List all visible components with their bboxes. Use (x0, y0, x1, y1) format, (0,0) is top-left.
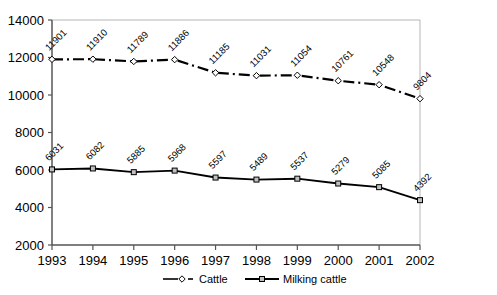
legend-label: Milking cattle (283, 273, 347, 285)
chart-legend: CattleMilking cattle (163, 273, 347, 285)
data-point-marker-square (295, 176, 300, 181)
x-axis-tick-label: 1997 (201, 253, 230, 268)
data-point-label: 5279 (329, 154, 352, 177)
x-axis-tick-label: 1995 (119, 253, 148, 268)
data-point-marker-diamond (253, 72, 259, 78)
data-point-marker-diamond (212, 70, 218, 76)
x-axis-tick-label: 1998 (242, 253, 271, 268)
y-axis-tick-label: 2000 (15, 238, 44, 253)
series-cattle (49, 56, 423, 102)
data-point-label: 5968 (165, 141, 188, 164)
x-axis-tick-label: 1993 (38, 253, 67, 268)
data-point-marker-diamond (376, 82, 382, 88)
data-point-label: 10761 (329, 48, 355, 74)
x-axis-tick-label: 2000 (324, 253, 353, 268)
x-axis-tick-label: 1996 (160, 253, 189, 268)
data-point-label: 10548 (370, 52, 396, 78)
data-point-marker-square (213, 175, 218, 180)
data-point-label: 5597 (206, 148, 229, 171)
y-axis-tick-label: 8000 (15, 125, 44, 140)
data-point-marker-diamond (131, 58, 137, 64)
y-axis-tick-label: 12000 (8, 50, 44, 65)
data-point-label: 5085 (370, 158, 393, 181)
series-line (52, 59, 420, 98)
data-point-marker-square (50, 167, 55, 172)
data-point-marker-square (90, 166, 95, 171)
legend-label: Cattle (199, 273, 228, 285)
series-layer (49, 56, 423, 203)
data-point-label: 5489 (247, 150, 270, 173)
chart-canvas: 2000400060008000100001200014000 19931994… (0, 0, 497, 295)
data-point-marker-diamond (171, 56, 177, 62)
data-point-label: 11789 (124, 29, 150, 55)
y-axis-tick-label: 10000 (8, 88, 44, 103)
data-point-marker-square (172, 168, 177, 173)
data-point-marker-diamond (179, 276, 185, 282)
data-point-marker-diamond (417, 95, 423, 101)
x-axis: 1993199419951996199719981999200020012002 (38, 245, 435, 268)
data-point-marker-square (377, 185, 382, 190)
series-milking-cattle (50, 166, 423, 203)
data-point-label: 11031 (247, 43, 273, 69)
data-point-marker-square (254, 177, 259, 182)
data-point-label: 11054 (288, 43, 314, 69)
data-point-label: 9804 (411, 69, 434, 92)
data-point-marker-square (131, 170, 136, 175)
data-point-label: 11886 (165, 27, 191, 53)
x-axis-tick-label: 1999 (283, 253, 312, 268)
y-axis-tick-label: 14000 (8, 13, 44, 28)
data-point-label: 5537 (288, 149, 311, 172)
legend-item-milking-cattle[interactable]: Milking cattle (245, 273, 347, 285)
x-axis-tick-label: 1994 (78, 253, 107, 268)
data-point-label: 6031 (43, 140, 66, 163)
data-point-marker-square (336, 181, 341, 186)
data-point-label: 11910 (84, 27, 110, 53)
data-point-marker-diamond (90, 56, 96, 62)
data-point-marker-diamond (335, 78, 341, 84)
series-line (52, 168, 420, 200)
line-chart: 2000400060008000100001200014000 19931994… (0, 0, 497, 295)
data-point-label: 11185 (206, 41, 231, 66)
plot-area-border (52, 20, 420, 245)
data-point-label: 4392 (411, 171, 434, 194)
legend-item-cattle[interactable]: Cattle (163, 273, 228, 285)
data-point-marker-diamond (294, 72, 300, 78)
y-axis-tick-label: 4000 (15, 200, 44, 215)
data-point-marker-square (418, 198, 423, 203)
y-axis-tick-label: 6000 (15, 163, 44, 178)
x-axis-tick-label: 2002 (406, 253, 435, 268)
x-axis-tick-label: 2001 (365, 253, 394, 268)
data-point-marker-square (260, 277, 265, 282)
data-point-label: 6082 (84, 139, 107, 162)
data-point-label: 11901 (43, 27, 69, 53)
data-point-label: 5885 (124, 143, 147, 166)
